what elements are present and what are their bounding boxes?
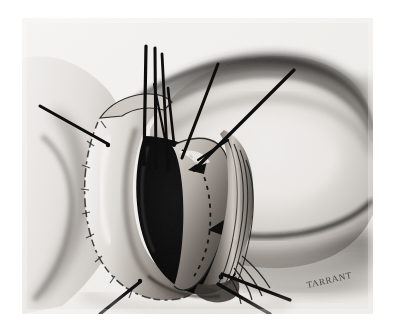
grain-overlay bbox=[22, 18, 373, 314]
illustration-plate: TARRANT bbox=[22, 18, 373, 314]
figure-page: TARRANT surgical-illustration bbox=[0, 0, 394, 336]
surgical-illustration-svg bbox=[22, 18, 373, 314]
